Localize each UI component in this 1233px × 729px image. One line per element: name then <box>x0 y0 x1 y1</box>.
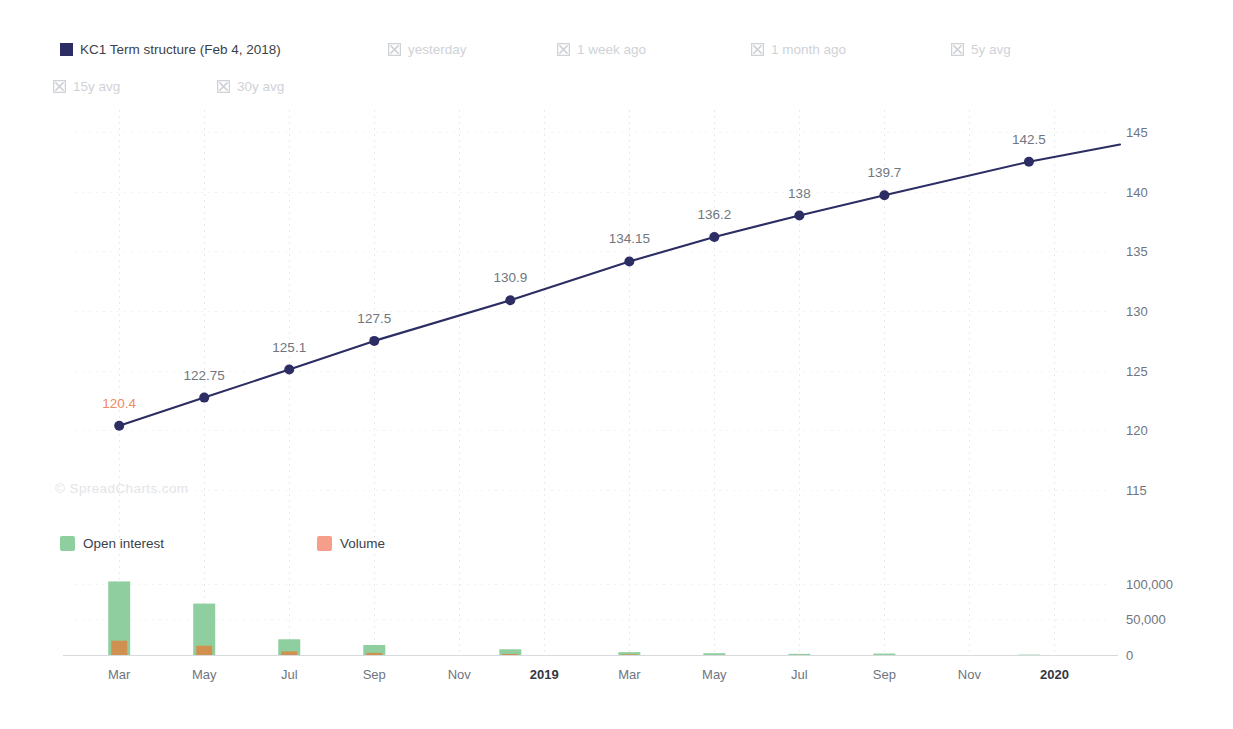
x-box-icon <box>951 43 964 56</box>
x-box-icon <box>53 80 66 93</box>
data-point-label: 138 <box>788 186 811 200</box>
data-point-label: 127.5 <box>357 311 391 325</box>
x-axis-tick-label: Sep <box>363 668 386 681</box>
volume-bar <box>196 646 212 655</box>
data-point-marker <box>199 393 209 403</box>
x-axis-tick-label: Sep <box>873 668 896 681</box>
data-point-marker <box>505 295 515 305</box>
x-axis-tick-label: May <box>192 668 217 681</box>
gridlines <box>120 110 1055 655</box>
x-axis-tick-label: 2019 <box>530 668 559 681</box>
price-line-extension <box>1029 144 1120 161</box>
open-interest-bar <box>788 654 810 655</box>
data-point-marker <box>114 421 124 431</box>
volume-bars <box>108 581 1040 655</box>
series-legend: KC1 Term structure (Feb 4, 2018)yesterda… <box>0 36 1233 106</box>
legend-label-volume: Volume <box>340 536 385 551</box>
chart-page: KC1 Term structure (Feb 4, 2018)yesterda… <box>0 0 1233 729</box>
volume-bar <box>621 654 637 655</box>
legend-color-swatch-icon <box>60 43 73 56</box>
legend-label-open-interest: Open interest <box>83 536 164 551</box>
price-axis-tick-label: 120 <box>1126 424 1148 437</box>
price-axis-tick-label: 125 <box>1126 364 1148 377</box>
x-axis-tick-label: May <box>702 668 727 681</box>
legend-item-30y-avg[interactable]: 30y avg <box>217 80 284 94</box>
open-interest-bar <box>703 653 725 655</box>
legend-item-label: KC1 Term structure (Feb 4, 2018) <box>80 43 281 57</box>
legend-item-15y-avg[interactable]: 15y avg <box>53 80 120 94</box>
data-point-label: 136.2 <box>697 207 731 221</box>
plot-svg <box>0 0 1233 729</box>
data-point-marker <box>624 256 634 266</box>
data-point-label: 139.7 <box>867 166 901 180</box>
data-point-label: 120.4 <box>102 396 136 410</box>
open-interest-bar <box>618 652 640 655</box>
data-point-markers <box>114 157 1034 431</box>
legend-item-label: 1 week ago <box>577 43 646 57</box>
open-interest-bar <box>363 645 385 655</box>
watermark: © SpreadCharts.com <box>55 481 188 496</box>
legend-item-yesterday[interactable]: yesterday <box>388 43 467 57</box>
x-axis-tick-label: 2020 <box>1040 668 1069 681</box>
legend-item-open-interest[interactable]: Open interest <box>60 536 164 551</box>
legend-item-kc1-term-structure-feb-4-2018[interactable]: KC1 Term structure (Feb 4, 2018) <box>60 43 281 57</box>
x-box-icon <box>217 80 230 93</box>
x-box-icon <box>751 43 764 56</box>
open-interest-bar <box>193 604 215 655</box>
legend-item-label: 5y avg <box>971 43 1011 57</box>
volume-swatch-icon <box>317 536 332 551</box>
data-point-marker <box>879 190 889 200</box>
open-interest-bar <box>873 654 895 655</box>
volume-axis-tick-label: 50,000 <box>1126 613 1166 626</box>
data-point-marker <box>284 365 294 375</box>
data-point-label: 142.5 <box>1012 132 1046 146</box>
legend-item-1-week-ago[interactable]: 1 week ago <box>557 43 646 57</box>
price-axis-tick-label: 115 <box>1126 484 1147 497</box>
volume-gridlines <box>75 585 1108 656</box>
open-interest-bar <box>278 639 300 655</box>
volume-bar <box>502 654 518 655</box>
legend-item-label: 15y avg <box>73 80 120 94</box>
data-point-marker <box>1024 157 1034 167</box>
data-point-label: 134.15 <box>609 232 650 246</box>
horizontal-gridlines <box>75 133 1108 491</box>
price-axis-tick-label: 135 <box>1126 245 1148 258</box>
legend-item-label: 30y avg <box>237 80 284 94</box>
legend-item-label: yesterday <box>408 43 467 57</box>
open-interest-bar <box>1018 655 1040 656</box>
x-axis-tick-label: Mar <box>618 668 640 681</box>
volume-axis-tick-label: 0 <box>1126 649 1133 662</box>
x-axis-tick-label: Mar <box>108 668 130 681</box>
x-axis-tick-label: Nov <box>958 668 981 681</box>
plot-area <box>0 0 1233 729</box>
x-axis-tick-label: Nov <box>448 668 471 681</box>
data-point-label: 125.1 <box>272 340 306 354</box>
price-axis-tick-label: 130 <box>1126 305 1148 318</box>
price-line <box>119 162 1029 426</box>
data-point-marker <box>369 336 379 346</box>
data-point-label: 130.9 <box>493 271 527 285</box>
open-interest-swatch-icon <box>60 536 75 551</box>
legend-item-volume[interactable]: Volume <box>317 536 385 551</box>
volume-bar <box>111 641 127 655</box>
price-axis-tick-label: 145 <box>1126 125 1148 138</box>
volume-legend: Open interest Volume <box>60 536 385 551</box>
x-axis-tick-label: Jul <box>281 668 298 681</box>
price-axis-tick-label: 140 <box>1126 185 1148 198</box>
legend-item-label: 1 month ago <box>771 43 846 57</box>
volume-axis-tick-label: 100,000 <box>1126 577 1173 590</box>
x-box-icon <box>557 43 570 56</box>
x-axis-tick-label: Jul <box>791 668 808 681</box>
data-point-marker <box>709 232 719 242</box>
volume-bar <box>281 651 297 655</box>
open-interest-bar <box>108 581 130 655</box>
legend-item-1-month-ago[interactable]: 1 month ago <box>751 43 846 57</box>
x-box-icon <box>388 43 401 56</box>
open-interest-bar <box>499 649 521 655</box>
data-point-marker <box>794 211 804 221</box>
volume-bar <box>366 653 382 655</box>
data-point-label: 122.75 <box>184 368 225 382</box>
legend-item-5y-avg[interactable]: 5y avg <box>951 43 1011 57</box>
